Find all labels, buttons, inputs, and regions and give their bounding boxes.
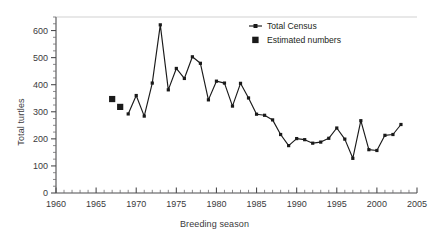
data-point-total-census <box>207 98 210 101</box>
data-point-total-census <box>327 137 330 140</box>
data-point-total-census <box>303 138 306 141</box>
data-point-total-census <box>367 148 370 151</box>
y-tick-label: 400 <box>33 80 48 90</box>
legend-marker-total-census-square <box>254 24 258 28</box>
x-tick-label: 1970 <box>126 199 146 209</box>
legend-label-total-census: Total Census <box>267 21 317 31</box>
y-tick-label: 500 <box>33 53 48 63</box>
data-point-total-census <box>223 81 226 84</box>
data-point-total-census <box>239 82 242 85</box>
data-point-total-census <box>319 141 322 144</box>
legend-label-estimated-numbers: Estimated numbers <box>267 35 341 45</box>
data-point-total-census <box>271 118 274 121</box>
legend-marker-estimated-numbers <box>252 37 258 43</box>
data-point-total-census <box>311 142 314 145</box>
data-point-total-census <box>335 126 338 129</box>
data-point-total-census <box>399 123 402 126</box>
x-tick-label: 2000 <box>367 199 387 209</box>
data-point-total-census <box>263 114 266 117</box>
x-tick-label: 1995 <box>327 199 347 209</box>
data-point-estimated-numbers <box>117 104 123 110</box>
y-tick-label: 0 <box>43 188 48 198</box>
data-point-total-census <box>167 88 170 91</box>
data-point-total-census <box>191 55 194 58</box>
chart-figure: Total turtles 01002003004005006001960196… <box>0 0 429 243</box>
y-tick-label: 100 <box>33 161 48 171</box>
data-point-total-census <box>183 77 186 80</box>
data-point-total-census <box>143 115 146 118</box>
data-point-total-census <box>391 133 394 136</box>
data-point-total-census <box>127 112 130 115</box>
y-tick-label: 200 <box>33 134 48 144</box>
data-point-total-census <box>159 23 162 26</box>
x-tick-label: 1985 <box>247 199 267 209</box>
data-point-total-census <box>287 144 290 147</box>
data-point-total-census <box>215 80 218 83</box>
y-tick-label: 300 <box>33 107 48 117</box>
data-point-total-census <box>343 138 346 141</box>
y-tick-label: 600 <box>33 26 48 36</box>
x-tick-label: 1980 <box>206 199 226 209</box>
x-tick-label: 1960 <box>46 199 66 209</box>
x-tick-label: 1975 <box>166 199 186 209</box>
chart-canvas: 0100200300400500600196019651970197519801… <box>0 0 429 243</box>
data-point-total-census <box>279 133 282 136</box>
y-axis-label-container: Total turtles <box>0 0 24 243</box>
data-point-total-census <box>295 137 298 140</box>
x-tick-label: 2005 <box>407 199 427 209</box>
x-tick-label: 1965 <box>86 199 106 209</box>
y-axis-label: Total turtles <box>16 67 26 177</box>
data-point-total-census <box>247 96 250 99</box>
data-point-total-census <box>175 67 178 70</box>
data-point-total-census <box>375 149 378 152</box>
data-point-total-census <box>135 94 138 97</box>
data-point-estimated-numbers <box>109 96 115 102</box>
data-point-total-census <box>383 134 386 137</box>
data-point-total-census <box>359 119 362 122</box>
data-point-total-census <box>351 157 354 160</box>
data-point-total-census <box>255 113 258 116</box>
data-point-total-census <box>199 62 202 65</box>
x-tick-label: 1990 <box>287 199 307 209</box>
data-point-total-census <box>231 104 234 107</box>
data-point-total-census <box>151 81 154 84</box>
series-line-total-census <box>128 25 401 158</box>
x-axis-label: Breeding season <box>0 219 429 229</box>
